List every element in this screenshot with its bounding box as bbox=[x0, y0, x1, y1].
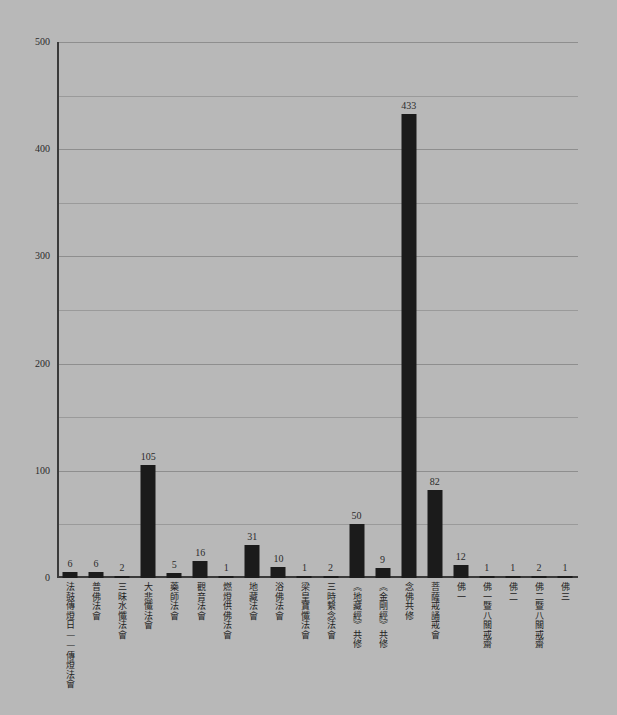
x-axis-label-slot: 浴佛法會 bbox=[265, 582, 291, 624]
x-axis-label-text: 念佛共修 bbox=[404, 582, 414, 620]
bar[interactable] bbox=[193, 561, 208, 578]
x-axis-label-text: 佛一暨八關戒齋 bbox=[482, 582, 492, 649]
bar-value-label: 2 bbox=[536, 563, 541, 573]
x-axis-label-text: 地藏法會 bbox=[248, 582, 258, 620]
x-axis-label-text: 大悲懺法會 bbox=[143, 582, 153, 630]
x-axis-label-slot: 佛三 bbox=[552, 582, 578, 605]
bar-slot: 12 bbox=[448, 42, 474, 578]
y-axis-tick-label: 0 bbox=[45, 573, 50, 583]
bar-slot: 2 bbox=[526, 42, 552, 578]
bar[interactable] bbox=[167, 573, 182, 578]
x-axis-label-slot: 菩薩戒誦戒會 bbox=[422, 582, 448, 643]
bar-value-label: 5 bbox=[172, 560, 177, 570]
bar[interactable] bbox=[245, 545, 260, 578]
bar-value-label: 1 bbox=[224, 563, 229, 573]
bar-slot: 6 bbox=[83, 42, 109, 578]
bar[interactable] bbox=[63, 572, 78, 578]
x-axis-label-slot: 藥師法會 bbox=[161, 582, 187, 624]
bar-slot: 6 bbox=[57, 42, 83, 578]
bar-slot: 31 bbox=[239, 42, 265, 578]
x-axis-label-text: 佛二 bbox=[508, 582, 518, 601]
bar-slot: 9 bbox=[370, 42, 396, 578]
bar-slot: 1 bbox=[213, 42, 239, 578]
bar-value-label: 2 bbox=[120, 563, 125, 573]
bar[interactable] bbox=[375, 568, 390, 578]
bar[interactable] bbox=[271, 567, 286, 578]
bar-slot: 50 bbox=[344, 42, 370, 578]
x-axis-label-text: 《金剛經》共修 bbox=[378, 582, 388, 649]
bar-value-label: 10 bbox=[273, 554, 283, 564]
x-axis-label-slot: 梁皇寶懺法會 bbox=[291, 582, 317, 643]
x-axis-label-text: 觀音法會 bbox=[196, 582, 206, 620]
bar-value-label: 6 bbox=[68, 559, 73, 569]
bar-value-label: 1 bbox=[510, 563, 515, 573]
x-axis-label-text: 燃燈供佛法會 bbox=[222, 582, 232, 639]
bar[interactable] bbox=[557, 576, 572, 578]
bar-slot: 1 bbox=[500, 42, 526, 578]
bar-slot: 1 bbox=[291, 42, 317, 578]
bar[interactable] bbox=[427, 490, 442, 578]
bar-value-label: 31 bbox=[247, 532, 257, 542]
bar-value-label: 1 bbox=[562, 563, 567, 573]
x-axis-label-text: 佛二暨八關戒齋 bbox=[534, 582, 544, 649]
x-axis-label-slot: 佛二 bbox=[500, 582, 526, 605]
x-axis-label-slot: 佛一暨八關戒齋 bbox=[474, 582, 500, 653]
bar-slot: 2 bbox=[109, 42, 135, 578]
bar[interactable] bbox=[297, 576, 312, 578]
x-axis-label-slot: 法鼓傳燈日——傳燈法會 bbox=[57, 582, 83, 693]
bar-slot: 1 bbox=[552, 42, 578, 578]
x-axis-label-slot: 燃燈供佛法會 bbox=[213, 582, 239, 643]
x-axis-label-slot: 《地藏經》共修 bbox=[344, 582, 370, 653]
x-axis-label-slot: 佛一 bbox=[448, 582, 474, 605]
bar[interactable] bbox=[401, 114, 416, 578]
x-axis-label-slot: 三時繫念法會 bbox=[318, 582, 344, 643]
bar[interactable] bbox=[115, 576, 130, 578]
x-axis-label-slot: 念佛共修 bbox=[396, 582, 422, 624]
bar[interactable] bbox=[479, 576, 494, 578]
bar-value-label: 1 bbox=[302, 563, 307, 573]
bar-value-label: 2 bbox=[328, 563, 333, 573]
x-axis-label-slot: 觀音法會 bbox=[187, 582, 213, 624]
bar-value-label: 433 bbox=[401, 101, 416, 111]
bar-value-label: 105 bbox=[141, 452, 156, 462]
x-axis-label-text: 佛三 bbox=[560, 582, 570, 601]
bar-slot: 82 bbox=[422, 42, 448, 578]
y-axis-tick-label: 200 bbox=[35, 359, 50, 369]
x-axis-label-text: 梁皇寶懺法會 bbox=[300, 582, 310, 639]
bar[interactable] bbox=[505, 576, 520, 578]
x-axis-label-text: 佛一 bbox=[456, 582, 466, 601]
bar[interactable] bbox=[453, 565, 468, 578]
x-axis-category-labels: 法鼓傳燈日——傳燈法會普佛法會三昧水懺法會大悲懺法會藥師法會觀音法會燃燈供佛法會… bbox=[57, 582, 578, 712]
bar-slot: 1 bbox=[474, 42, 500, 578]
bar-value-label: 16 bbox=[195, 548, 205, 558]
x-axis-label-text: 菩薩戒誦戒會 bbox=[430, 582, 440, 639]
x-axis-label-text: 三昧水懺法會 bbox=[117, 582, 127, 639]
x-axis-label-text: 法鼓傳燈日——傳燈法會 bbox=[65, 582, 75, 689]
bar-value-label: 12 bbox=[456, 552, 466, 562]
bar[interactable] bbox=[531, 576, 546, 578]
bar-slot: 433 bbox=[396, 42, 422, 578]
bar-value-label: 82 bbox=[430, 477, 440, 487]
x-axis-label-slot: 地藏法會 bbox=[239, 582, 265, 624]
bar[interactable] bbox=[141, 465, 156, 578]
bar[interactable] bbox=[89, 572, 104, 578]
bar-value-label: 9 bbox=[380, 555, 385, 565]
bar-slot: 16 bbox=[187, 42, 213, 578]
bar-slot: 5 bbox=[161, 42, 187, 578]
bar[interactable] bbox=[323, 576, 338, 578]
x-axis-label-slot: 《金剛經》共修 bbox=[370, 582, 396, 653]
bar-value-label: 1 bbox=[484, 563, 489, 573]
x-axis-label-slot: 三昧水懺法會 bbox=[109, 582, 135, 643]
bar-slot: 10 bbox=[265, 42, 291, 578]
x-axis-label-text: 藥師法會 bbox=[169, 582, 179, 620]
bar-value-label: 50 bbox=[352, 511, 362, 521]
x-axis-label-slot: 普佛法會 bbox=[83, 582, 109, 624]
bar[interactable] bbox=[219, 576, 234, 578]
bar-value-label: 6 bbox=[94, 559, 99, 569]
x-axis-label-text: 三時繫念法會 bbox=[326, 582, 336, 639]
bar[interactable] bbox=[349, 524, 364, 578]
bars-layer: 662105516131101250943382121121 bbox=[57, 42, 578, 578]
x-axis-label-text: 普佛法會 bbox=[91, 582, 101, 620]
x-axis-label-text: 浴佛法會 bbox=[274, 582, 284, 620]
y-axis-tick-label: 300 bbox=[35, 251, 50, 261]
